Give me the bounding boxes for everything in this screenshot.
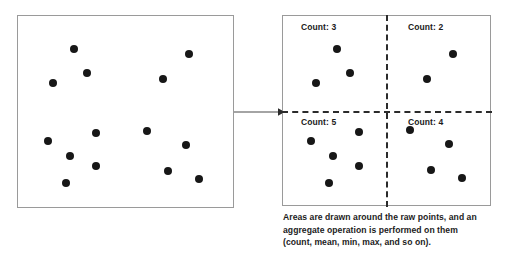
caption-line-3: (count, mean, min, max, and so on). (283, 236, 507, 249)
raw-data-point (195, 175, 203, 183)
raw-points-panel (17, 15, 234, 208)
quadrant-label-bottom-right: Count: 4 (408, 117, 443, 127)
raw-data-point (44, 137, 52, 145)
binned-data-point (458, 174, 466, 182)
figure-caption: Areas are drawn around the raw points, a… (283, 211, 507, 249)
raw-data-point (92, 162, 100, 170)
binned-data-point (427, 166, 435, 174)
raw-data-point (66, 152, 74, 160)
quadrant-label-top-right: Count: 2 (408, 22, 443, 32)
quadrant-label-top-left: Count: 3 (301, 22, 336, 32)
quadrant-divider-horizontal (282, 111, 492, 113)
binned-data-point (406, 126, 414, 134)
raw-data-point (159, 75, 167, 83)
raw-data-point (185, 50, 193, 58)
binned-data-point (329, 152, 337, 160)
caption-line-2: aggregate operation is performed on them (283, 224, 507, 237)
binned-data-point (445, 140, 453, 148)
binned-data-point (333, 45, 341, 53)
binned-data-point (346, 69, 354, 77)
binned-data-point (355, 162, 363, 170)
binned-data-point (312, 79, 320, 87)
raw-data-point (164, 167, 172, 175)
binned-data-point (423, 75, 431, 83)
binned-data-point (355, 128, 363, 136)
aggregation-diagram: Count: 3 Count: 2 Count: 5 Count: 4 Area… (0, 0, 510, 253)
binned-aggregate-panel: Count: 3 Count: 2 Count: 5 Count: 4 (282, 15, 491, 206)
arrow-icon (234, 106, 286, 118)
binned-data-point (449, 50, 457, 58)
binned-data-point (325, 179, 333, 187)
raw-data-point (92, 129, 100, 137)
caption-line-1: Areas are drawn around the raw points, a… (283, 211, 507, 224)
raw-data-point (182, 141, 190, 149)
quadrant-label-bottom-left: Count: 5 (301, 117, 336, 127)
raw-data-point (83, 69, 91, 77)
raw-data-point (62, 179, 70, 187)
binned-data-point (307, 137, 315, 145)
raw-data-point (70, 45, 78, 53)
raw-data-point (49, 79, 57, 87)
raw-data-point (143, 127, 151, 135)
transform-arrow (234, 104, 286, 116)
